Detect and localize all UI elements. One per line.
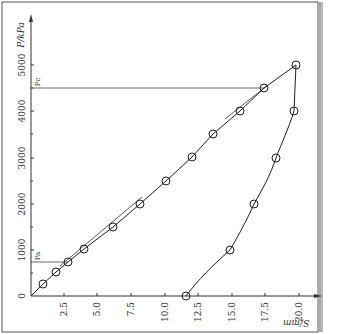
- x-tick-15.0: 15.0: [227, 302, 237, 322]
- y-axis-arrow-icon: [29, 14, 33, 22]
- x-tick-7.5: 7.5: [126, 302, 136, 317]
- reference-labels: Pc Pa: [34, 78, 42, 261]
- chart-figure: 1000 2000 3000 4000 5000 0 P/kPa 2.5 5.0…: [0, 0, 341, 334]
- x-axis-label: S/mm: [283, 318, 309, 328]
- y-tick-1000: 1000: [17, 238, 27, 261]
- x-tick-17.5: 17.5: [260, 302, 270, 322]
- x-axis: [31, 294, 322, 298]
- reference-lines: [31, 88, 264, 262]
- y-tick-labels: 1000 2000 3000 4000 5000 0 P/kPa: [16, 22, 27, 299]
- y-tick-2000: 2000: [17, 192, 27, 215]
- lower-tangent: [60, 197, 142, 266]
- loading-curve: [31, 65, 296, 296]
- y-tick-3000: 3000: [17, 146, 27, 169]
- x-tick-2.5: 2.5: [59, 302, 69, 317]
- chart-svg: 1000 2000 3000 4000 5000 0 P/kPa 2.5 5.0…: [0, 0, 341, 334]
- frame-border: [2, 2, 318, 332]
- pa-label: Pa: [34, 252, 42, 261]
- unloading-curve: [186, 65, 296, 296]
- y-axis-label: P/kPa: [16, 22, 26, 49]
- y-axis: [29, 14, 33, 296]
- x-tick-10.0: 10.0: [160, 302, 170, 322]
- y-tick-4000: 4000: [17, 99, 27, 122]
- y-tick-5000: 5000: [17, 53, 27, 76]
- x-tick-5.0: 5.0: [92, 302, 102, 317]
- x-tick-labels: 2.5 5.0 7.5 10.0 12.5 15.0 17.5 20.0 S/m…: [59, 302, 309, 328]
- data-markers: [39, 61, 300, 300]
- x-tick-12.5: 12.5: [193, 302, 203, 322]
- origin-label: 0: [17, 293, 27, 299]
- pc-label: Pc: [34, 78, 42, 87]
